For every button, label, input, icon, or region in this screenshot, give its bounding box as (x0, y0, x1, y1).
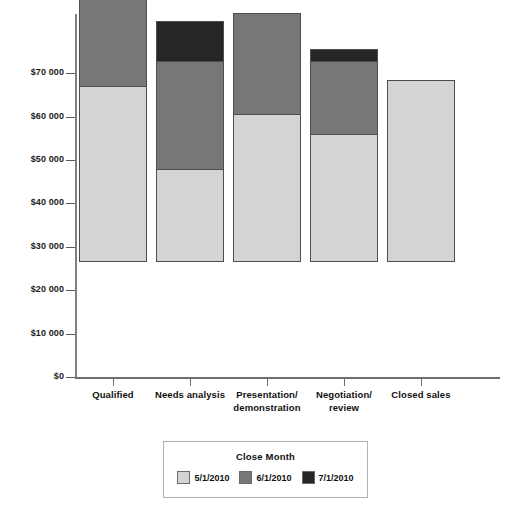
bar-group[interactable] (156, 0, 224, 400)
y-tick-mark (66, 203, 75, 204)
legend-swatch (302, 471, 315, 484)
chart-root: $0$10 000$20 000$30 000$40 000$50 000$60… (0, 0, 511, 516)
bar-segment[interactable] (156, 61, 224, 170)
y-tick-mark (66, 160, 75, 161)
y-tick-label: $0 (6, 371, 64, 381)
bar-segment[interactable] (79, 86, 147, 262)
legend-item[interactable]: 6/1/2010 (239, 471, 291, 484)
y-tick-label: $20 000 (6, 284, 64, 294)
y-tick-label: $70 000 (6, 67, 64, 77)
bar-segment[interactable] (387, 80, 455, 262)
legend-label: 7/1/2010 (319, 473, 354, 483)
bar-group[interactable] (387, 0, 455, 400)
category-label-line: review (298, 401, 390, 414)
bar-stack (387, 80, 455, 261)
bar-stack (156, 21, 224, 261)
legend-item[interactable]: 7/1/2010 (302, 471, 354, 484)
legend-item[interactable]: 5/1/2010 (177, 471, 229, 484)
y-tick-label: $50 000 (6, 154, 64, 164)
y-tick-mark (66, 290, 75, 291)
y-tick-mark (66, 334, 75, 335)
bar-stack (310, 49, 378, 261)
y-tick-mark (66, 117, 75, 118)
legend: Close Month 5/1/20106/1/20107/1/2010 (163, 441, 368, 498)
legend-swatch (239, 471, 252, 484)
y-tick-label: $60 000 (6, 111, 64, 121)
y-tick-label: $40 000 (6, 197, 64, 207)
bar-segment[interactable] (310, 134, 378, 262)
bar-stack (233, 13, 301, 261)
bar-segment[interactable] (156, 21, 224, 62)
legend-title: Close Month (164, 451, 367, 462)
y-tick-mark (66, 247, 75, 248)
y-axis-line (75, 14, 77, 378)
bar-segment[interactable] (156, 169, 224, 262)
bar-segment[interactable] (233, 13, 301, 115)
bar-group[interactable] (310, 0, 378, 400)
plot-area: $0$10 000$20 000$30 000$40 000$50 000$60… (0, 0, 511, 400)
legend-label: 5/1/2010 (194, 473, 229, 483)
x-axis-category-label: Closed sales (375, 388, 467, 401)
legend-label: 6/1/2010 (256, 473, 291, 483)
bar-segment[interactable] (79, 0, 147, 87)
y-tick-mark (66, 73, 75, 74)
legend-swatch (177, 471, 190, 484)
bar-group[interactable] (233, 0, 301, 400)
legend-items: 5/1/20106/1/20107/1/2010 (164, 471, 367, 484)
bar-segment[interactable] (310, 61, 378, 135)
category-label-line: Closed sales (375, 388, 467, 401)
y-tick-label: $30 000 (6, 241, 64, 251)
y-tick-label: $10 000 (6, 328, 64, 338)
bar-group[interactable] (79, 0, 147, 400)
bar-segment[interactable] (233, 114, 301, 262)
y-tick-mark (66, 377, 75, 378)
bar-stack (79, 0, 147, 261)
